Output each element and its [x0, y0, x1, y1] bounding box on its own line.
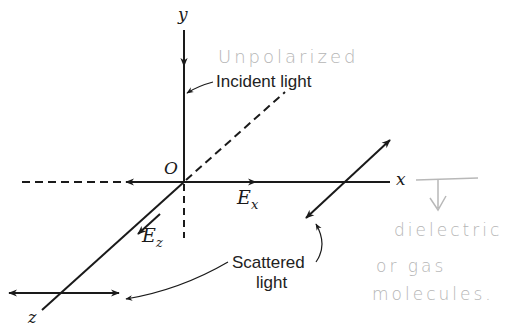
ez-label-main: E	[142, 224, 156, 246]
ex-label-sub: x	[251, 197, 258, 212]
diagonal-dashed	[186, 92, 285, 180]
ex-label-main: E	[237, 186, 251, 208]
incident-light-label: Incident light	[216, 73, 311, 90]
scattered-leader-left	[126, 262, 228, 299]
handwritten-molecules: molecules.	[372, 286, 494, 303]
scattered-polarization-x	[306, 140, 390, 218]
scattered-light-label-1: Scattered	[232, 254, 305, 271]
handwritten-dielectric: dielectric	[394, 222, 502, 239]
scattering-diagram: y x z O Ex Ez Incident light Scattered l…	[0, 0, 514, 328]
x-axis-label: x	[396, 171, 406, 188]
y-axis-label: y	[178, 6, 188, 23]
ez-label: Ez	[142, 226, 163, 249]
pencil-down-arrow	[430, 180, 446, 210]
incident-leader	[187, 82, 213, 93]
ex-label: Ex	[237, 188, 258, 211]
scattered-light-label-2: light	[256, 274, 287, 291]
ez-label-sub: z	[156, 235, 163, 250]
pencil-line	[416, 178, 478, 180]
scattered-leader-right	[316, 224, 322, 262]
z-axis-label: z	[28, 310, 36, 326]
handwritten-unpolarized: Unpolarized	[218, 48, 358, 66]
origin-label: O	[164, 160, 178, 177]
handwritten-or-gas: or gas	[376, 258, 446, 275]
